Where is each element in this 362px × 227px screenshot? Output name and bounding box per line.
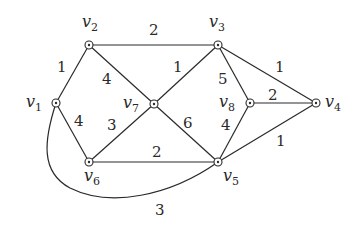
label-v7: v7 (123, 93, 139, 115)
node-v2 (85, 41, 93, 49)
weight-v2-v3: 2 (149, 21, 159, 39)
label-v6: v6 (84, 166, 100, 188)
weight-v3-v4: 1 (275, 58, 285, 76)
weight-v1-v5-curved: 3 (155, 201, 165, 219)
node-v7 (150, 100, 158, 108)
edge-v7-v3 (154, 45, 218, 104)
label-v3: v3 (209, 12, 225, 34)
node-v8 (246, 99, 254, 107)
edge-v3-v4 (218, 45, 316, 103)
weight-v6-v7: 3 (107, 116, 117, 134)
edge-v2-v7 (89, 45, 154, 104)
weight-v8-v5: 4 (221, 116, 231, 134)
weight-v6-v5: 2 (152, 143, 162, 161)
graph-diagram: 1 2 4 1 5 1 2 4 3 6 2 4 1 3 v1 v2 v3 v4 … (0, 0, 362, 227)
node-v4 (312, 99, 320, 107)
label-v5: v5 (223, 166, 239, 188)
edge-v6-v7 (89, 104, 154, 162)
label-v4: v4 (325, 92, 341, 114)
node-v5 (214, 158, 222, 166)
weight-v7-v5: 6 (183, 114, 193, 132)
node-v3 (214, 41, 222, 49)
weight-v1-v6: 4 (74, 112, 84, 130)
weight-v2-v7: 4 (102, 70, 112, 88)
weight-v1-v2: 1 (57, 58, 67, 76)
weight-v8-v4: 2 (268, 86, 278, 104)
weight-v5-v4: 1 (276, 132, 286, 150)
weight-v3-v8: 5 (218, 70, 228, 88)
edge-v1-v6 (56, 103, 89, 162)
node-v1 (52, 99, 60, 107)
edge-v7-v5 (154, 104, 218, 162)
label-v8: v8 (219, 92, 235, 114)
weight-v7-v3: 1 (173, 58, 183, 76)
label-v1: v1 (26, 92, 42, 114)
node-v6 (85, 158, 93, 166)
label-v2: v2 (82, 12, 98, 34)
